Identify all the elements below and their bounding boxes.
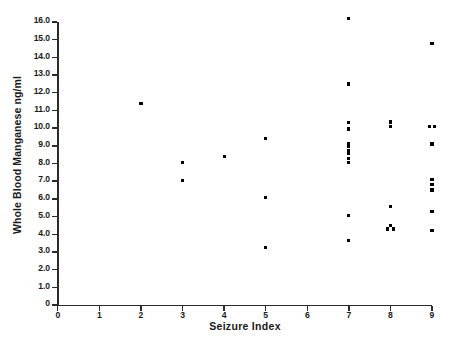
y-tick-label: 2.0 (38, 263, 50, 273)
y-tick-mark (52, 251, 57, 252)
y-tick-label: 1.0 (38, 281, 50, 291)
data-point (181, 179, 184, 182)
y-tick: 12.0 (52, 92, 57, 93)
y-tick-mark (52, 21, 57, 22)
y-tick: 1.0 (52, 287, 57, 288)
y-tick-mark (52, 287, 57, 288)
data-point (347, 161, 350, 164)
y-tick: 8.0 (52, 163, 57, 164)
y-tick: 2.0 (52, 269, 57, 270)
data-point (386, 227, 389, 230)
y-tick-label: 0 (45, 298, 50, 308)
y-tick-mark (52, 234, 57, 235)
x-tick-label: 3 (173, 310, 193, 320)
y-tick: 3.0 (52, 251, 57, 252)
y-tick: 16.0 (52, 21, 57, 22)
data-point (430, 188, 433, 191)
data-point (139, 102, 142, 105)
data-point (347, 121, 350, 124)
data-point (347, 214, 350, 217)
y-tick: 5.0 (52, 216, 57, 217)
y-tick: 4.0 (52, 234, 57, 235)
data-point (347, 157, 350, 160)
data-point (433, 125, 436, 128)
y-tick-label: 11.0 (34, 104, 50, 114)
data-point (347, 127, 350, 130)
y-tick-mark (52, 163, 57, 164)
y-tick-mark (52, 198, 57, 199)
y-tick-mark (52, 269, 57, 270)
y-tick: 14.0 (52, 57, 57, 58)
x-axis-line (57, 305, 432, 307)
data-point (223, 155, 226, 158)
y-tick-label: 9.0 (38, 139, 50, 149)
data-point (389, 120, 392, 123)
y-tick-label: 12.0 (34, 86, 50, 96)
data-point (430, 210, 433, 213)
x-tick-label: 9 (422, 310, 442, 320)
data-point (430, 42, 433, 45)
y-tick: 6.0 (52, 198, 57, 199)
data-point (430, 229, 433, 232)
scatter-plot-figure: Whole Blood Manganese ng/ml 01.02.03.04.… (0, 0, 449, 342)
y-tick-label: 8.0 (38, 157, 50, 167)
y-tick-label: 16.0 (34, 15, 50, 25)
x-axis-label: Seizure Index (58, 320, 432, 332)
y-tick-label: 14.0 (34, 51, 50, 61)
y-tick: 7.0 (52, 180, 57, 181)
x-tick-label: 1 (89, 310, 109, 320)
y-tick-mark (52, 39, 57, 40)
y-tick-label: 3.0 (38, 245, 50, 255)
data-point (430, 142, 433, 145)
data-point (347, 17, 350, 20)
y-tick-mark (52, 216, 57, 217)
x-tick-label: 2 (131, 310, 151, 320)
y-tick-mark (52, 180, 57, 181)
y-tick-mark (52, 92, 57, 93)
y-tick-mark (52, 57, 57, 58)
data-point (264, 137, 267, 140)
y-tick-label: 5.0 (38, 210, 50, 220)
data-point (430, 178, 433, 181)
data-point (389, 205, 392, 208)
x-tick-label: 7 (339, 310, 359, 320)
x-tick-label: 0 (48, 310, 68, 320)
data-point (347, 152, 350, 155)
y-tick: 15.0 (52, 39, 57, 40)
x-tick-label: 5 (256, 310, 276, 320)
data-point (389, 125, 392, 128)
y-tick-label: 15.0 (34, 33, 50, 43)
y-tick: 10.0 (52, 127, 57, 128)
y-tick: 11.0 (52, 110, 57, 111)
y-tick-mark (52, 145, 57, 146)
y-tick-label: 13.0 (34, 68, 50, 78)
x-tick-label: 8 (380, 310, 400, 320)
y-tick: 9.0 (52, 145, 57, 146)
data-point (392, 227, 395, 230)
x-tick-label: 6 (297, 310, 317, 320)
y-axis-line (57, 22, 59, 306)
y-tick: 13.0 (52, 74, 57, 75)
y-tick-label: 4.0 (38, 228, 50, 238)
y-tick-label: 6.0 (38, 192, 50, 202)
data-point (347, 239, 350, 242)
x-tick-label: 4 (214, 310, 234, 320)
data-point (181, 161, 184, 164)
y-tick-mark (52, 127, 57, 128)
y-tick-mark (52, 74, 57, 75)
y-tick-label: 7.0 (38, 174, 50, 184)
data-point (347, 82, 350, 85)
plot-area: 01.02.03.04.05.06.07.08.09.010.011.012.0… (0, 0, 449, 342)
data-point (264, 196, 267, 199)
data-point (430, 183, 433, 186)
data-point (264, 246, 267, 249)
y-tick-mark (52, 110, 57, 111)
data-point (428, 125, 431, 128)
y-tick-label: 10.0 (34, 121, 50, 131)
